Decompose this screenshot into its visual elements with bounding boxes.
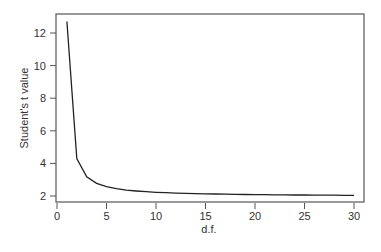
x-tick-label: 15 xyxy=(199,210,211,222)
y-tick-label: 8 xyxy=(40,92,46,104)
y-tick-label: 4 xyxy=(40,157,46,169)
y-tick-label: 10 xyxy=(34,60,46,72)
x-axis-ticks: 051015202530 xyxy=(54,203,360,222)
x-tick-label: 20 xyxy=(249,210,261,222)
x-tick-label: 30 xyxy=(348,210,360,222)
x-axis-label: d.f. xyxy=(201,223,216,235)
y-tick-label: 2 xyxy=(40,190,46,202)
plot-frame xyxy=(56,14,364,202)
y-axis-ticks: 24681012 xyxy=(34,27,56,202)
x-tick-label: 25 xyxy=(298,210,310,222)
x-tick-label: 5 xyxy=(103,210,109,222)
y-axis-label: Student's t value xyxy=(18,68,30,149)
y-tick-label: 6 xyxy=(40,125,46,137)
t-value-line xyxy=(67,22,354,196)
x-tick-label: 0 xyxy=(54,210,60,222)
chart-container: 051015202530 24681012 d.f. Student's t v… xyxy=(0,0,381,252)
x-tick-label: 10 xyxy=(150,210,162,222)
y-tick-label: 12 xyxy=(34,27,46,39)
